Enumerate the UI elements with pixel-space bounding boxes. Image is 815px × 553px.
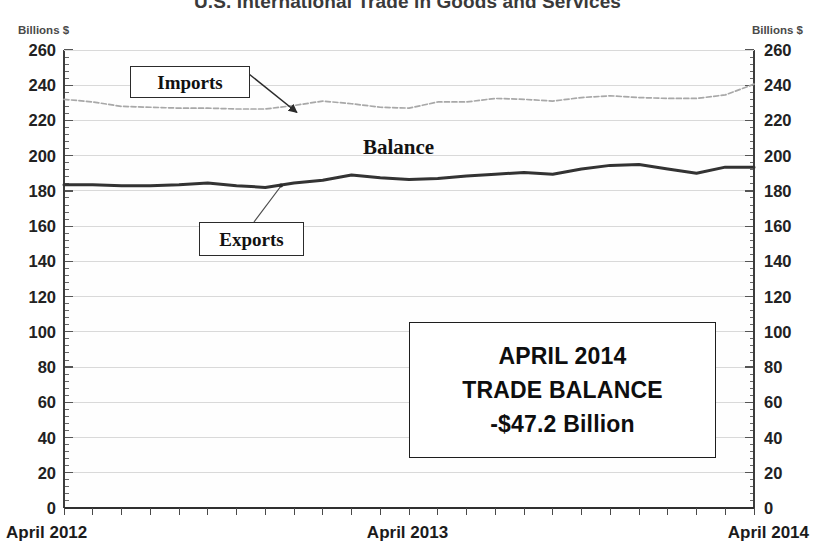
trade-chart: U.S. International Trade in Goods and Se… [0,0,815,553]
y-tick-right-120: 120 [764,288,792,306]
y-tick-right-0: 0 [764,499,773,517]
y-tick-left-180: 180 [28,182,56,200]
y-tick-left-140: 140 [28,252,56,270]
y-tick-left-20: 20 [38,464,56,482]
y-tick-right-160: 160 [764,217,792,235]
y-tick-left-100: 100 [28,323,56,341]
y-tick-left-0: 0 [47,499,56,517]
trade-balance-summary-box: APRIL 2014 TRADE BALANCE -$47.2 Billion [409,322,716,458]
summary-period: APRIL 2014 [498,343,626,370]
y-axis-unit-left: Billions $ [18,24,69,36]
y-axis-unit-right: Billions $ [752,24,803,36]
y-tick-left-80: 80 [38,358,56,376]
y-tick-left-40: 40 [38,429,56,447]
summary-metric: TRADE BALANCE [462,377,663,404]
y-tick-right-220: 220 [764,111,792,129]
x-axis-label-end: April 2014 [728,523,809,543]
y-tick-left-60: 60 [38,393,56,411]
y-tick-right-20: 20 [764,464,782,482]
y-tick-left-200: 200 [28,147,56,165]
y-tick-right-260: 260 [764,41,792,59]
y-axis-right-ticks: 260240220200180160140120100806040200 [764,50,812,508]
y-tick-right-80: 80 [764,358,782,376]
y-tick-right-40: 40 [764,429,782,447]
y-tick-left-160: 160 [28,217,56,235]
y-axis-left-ticks: 260240220200180160140120100806040200 [8,50,56,508]
y-tick-right-140: 140 [764,252,792,270]
imports-series-label: Imports [130,66,250,98]
y-tick-right-180: 180 [764,182,792,200]
y-tick-right-60: 60 [764,393,782,411]
chart-title: U.S. International Trade in Goods and Se… [0,0,815,13]
summary-value: -$47.2 Billion [490,411,635,438]
y-tick-right-100: 100 [764,323,792,341]
y-tick-left-260: 260 [28,41,56,59]
x-axis-label-mid: April 2013 [0,523,815,543]
balance-series-label: Balance [363,135,434,160]
y-tick-left-240: 240 [28,76,56,94]
y-tick-right-200: 200 [764,147,792,165]
y-tick-left-120: 120 [28,288,56,306]
exports-series-label: Exports [199,222,304,256]
y-tick-right-240: 240 [764,76,792,94]
y-tick-left-220: 220 [28,111,56,129]
